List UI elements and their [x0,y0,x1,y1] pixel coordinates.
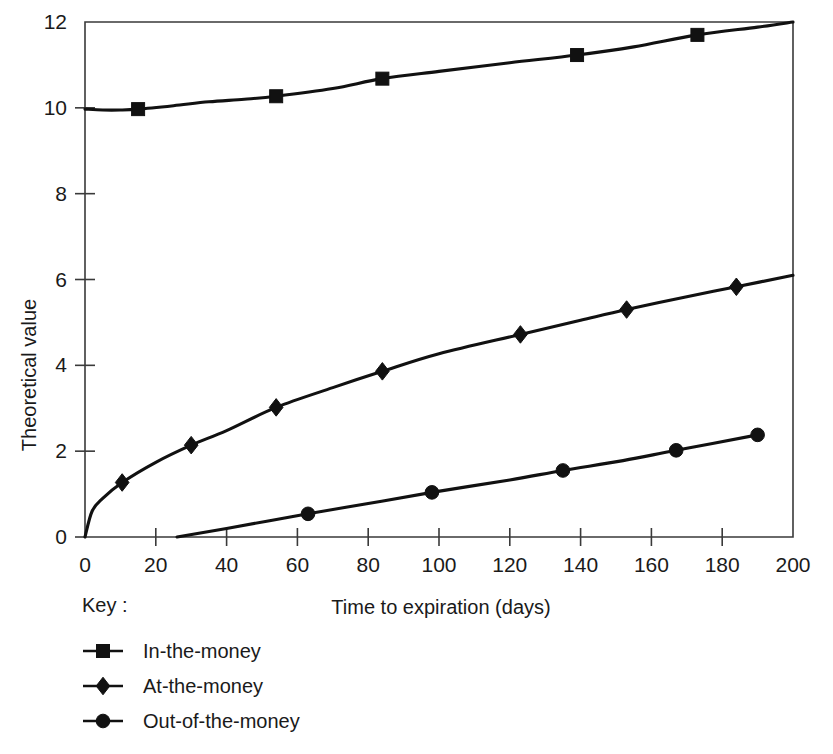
series-line [85,22,793,110]
series-diamond [85,275,793,537]
series-line [85,275,793,537]
data-point-marker [425,486,439,500]
legend-marker-circle-icon [96,714,110,728]
y-axis: 024681012 [44,10,95,548]
legend-entries: In-the-moneyAt-the-moneyOut-of-the-money [83,640,300,732]
data-point-marker [376,363,390,381]
data-point-marker [620,301,634,319]
chart-container: 024681012 020406080100120140160180200 Th… [0,0,833,754]
y-tick-label: 0 [55,525,67,548]
y-tick-label: 2 [55,439,67,462]
x-tick-label: 60 [286,553,309,576]
x-tick-label: 100 [421,553,456,576]
data-point-marker [556,464,570,478]
data-point-marker [691,28,704,41]
x-tick-label: 40 [215,553,238,576]
x-tick-label: 0 [79,553,91,576]
y-tick-label: 8 [55,182,67,205]
legend-item-diamond[interactable]: At-the-money [83,675,263,697]
data-point-marker [270,90,283,103]
data-series-group [85,22,793,537]
legend-item-square[interactable]: In-the-money [83,640,261,662]
x-tick-label: 20 [144,553,167,576]
series-square [85,22,793,116]
legend-title: Key : [82,594,128,616]
x-tick-label: 120 [492,553,527,576]
y-tick-label: 4 [55,353,67,376]
x-tick-label: 160 [634,553,669,576]
data-point-marker [751,428,765,442]
data-point-marker [269,399,283,417]
y-tick-label: 6 [55,268,67,291]
legend-item-label: In-the-money [143,640,261,662]
chart-legend: Key : In-the-moneyAt-the-moneyOut-of-the… [82,594,300,732]
x-tick-label: 80 [357,553,380,576]
y-tick-label: 10 [44,96,67,119]
legend-item-circle[interactable]: Out-of-the-money [83,710,300,732]
data-point-marker [730,278,744,296]
x-tick-label: 200 [775,553,810,576]
legend-item-label: At-the-money [143,675,263,697]
data-point-marker [376,72,389,85]
x-tick-label: 180 [705,553,740,576]
data-point-marker [669,443,683,457]
data-point-marker [571,49,584,62]
data-point-marker [115,474,129,492]
legend-marker-square-icon [97,645,110,658]
data-point-marker [184,436,198,454]
y-axis-title: Theoretical value [18,299,40,451]
x-tick-label: 140 [563,553,598,576]
plot-frame [85,22,793,537]
legend-item-label: Out-of-the-money [143,710,300,732]
data-point-marker [301,507,315,521]
theoretical-value-chart: 024681012 020406080100120140160180200 Th… [0,0,833,754]
series-circle [177,428,764,537]
x-axis-title: Time to expiration (days) [331,596,550,618]
data-point-marker [132,103,145,116]
legend-marker-diamond-icon [96,677,110,695]
data-point-marker [514,326,528,344]
y-tick-label: 12 [44,10,67,33]
